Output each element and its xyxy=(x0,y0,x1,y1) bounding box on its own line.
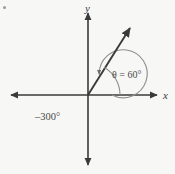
negative-angle-label: –300° xyxy=(35,112,60,123)
angle-diagram-figure: x y θ = 60° –300° xyxy=(0,0,175,174)
terminal-side-ray xyxy=(88,28,130,95)
coordinate-plane-graphic xyxy=(0,0,175,174)
theta-angle-label: θ = 60° xyxy=(112,70,141,80)
x-axis-label: x xyxy=(163,90,168,101)
y-axis-label: y xyxy=(85,3,90,14)
